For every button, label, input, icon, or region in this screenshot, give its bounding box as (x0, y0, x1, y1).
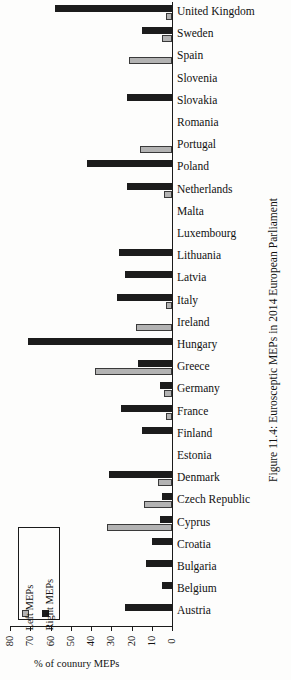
country-label: Estonia (177, 449, 212, 461)
bar-left-meps (158, 479, 172, 486)
bar-left-meps (164, 191, 172, 198)
legend-entry-left-meps: Left MEPs (19, 528, 39, 621)
country-label: Malta (177, 205, 204, 217)
country-label: Portugal (177, 138, 216, 150)
bar-right-meps (28, 338, 172, 345)
bar-left-meps (136, 324, 172, 331)
bar-right-meps (162, 493, 172, 500)
figure-caption: Figure 11.4: Eurosceptic MEPs in 2014 Eu… (258, 0, 288, 680)
country-label: Poland (177, 160, 209, 172)
bar-right-meps (125, 271, 172, 278)
country-label: Luxembourg (177, 227, 236, 239)
bar-left-meps (144, 501, 172, 508)
legend-label-right-meps: Right MEPs (43, 567, 56, 633)
zero-baseline-axis (172, 2, 173, 626)
axis-tick-label: 80 (3, 628, 17, 654)
figure-container: Figure 11.4: Eurosceptic MEPs in 2014 Eu… (0, 0, 291, 680)
country-label: United Kingdom (177, 5, 255, 17)
bar-left-meps (166, 413, 172, 420)
bar-right-meps (109, 471, 172, 478)
bar-right-meps (160, 382, 172, 389)
bar-left-meps (166, 13, 172, 20)
country-label: Sweden (177, 27, 213, 39)
bar-left-meps (107, 524, 172, 531)
country-label: Cyprus (177, 516, 210, 528)
bar-right-meps (87, 160, 172, 167)
axis-tick-label: 50 (64, 628, 78, 654)
country-label: Hungary (177, 338, 217, 350)
legend-entry-right-meps: Right MEPs (39, 528, 59, 621)
bar-left-meps (166, 302, 172, 309)
country-label: Ireland (177, 316, 210, 328)
axis-tick-label: 40 (84, 628, 98, 654)
country-label: Denmark (177, 471, 220, 483)
bar-right-meps (138, 360, 172, 367)
country-label: Germany (177, 382, 220, 394)
bar-right-meps (160, 516, 172, 523)
country-label: Finland (177, 427, 212, 439)
bar-left-meps (162, 35, 172, 42)
bar-right-meps (146, 560, 172, 567)
axis-tick-label: 10 (145, 628, 159, 654)
axis-tick-label: 30 (104, 628, 118, 654)
country-label: Lithuania (177, 249, 221, 261)
country-label: Spain (177, 49, 203, 61)
bar-right-meps (142, 27, 172, 34)
country-label: Slovenia (177, 72, 217, 84)
bar-right-meps (142, 427, 172, 434)
axis-tick-label: 20 (125, 628, 139, 654)
bar-left-meps (164, 390, 172, 397)
country-label: Belgium (177, 582, 217, 594)
legend-label-left-meps: Left MEPs (23, 567, 36, 633)
bar-left-meps (129, 57, 172, 64)
country-label: Romania (177, 116, 219, 128)
axis-tick-label: 0 (165, 628, 179, 654)
bar-right-meps (152, 538, 172, 545)
country-label: Greece (177, 360, 210, 372)
country-label: Italy (177, 294, 198, 306)
chart-legend: Left MEPs Right MEPs (18, 527, 60, 620)
bar-right-meps (119, 249, 172, 256)
country-label: Croatia (177, 538, 211, 550)
country-label: Czech Republic (177, 493, 250, 505)
bar-left-meps (140, 146, 172, 153)
bar-left-meps (95, 368, 172, 375)
bar-right-meps (127, 94, 172, 101)
bar-right-meps (117, 294, 172, 301)
country-label: Slovakia (177, 94, 217, 106)
bar-right-meps (162, 582, 172, 589)
bar-right-meps (125, 604, 172, 611)
country-label: Austria (177, 604, 211, 616)
country-label: Netherlands (177, 183, 233, 195)
bar-right-meps (55, 5, 172, 12)
country-label: Latvia (177, 271, 206, 283)
bar-right-meps (127, 183, 172, 190)
country-label: France (177, 405, 208, 417)
value-axis-title: % of counury MEPs (34, 658, 119, 669)
bar-right-meps (121, 405, 172, 412)
country-label: Bulgaria (177, 560, 217, 572)
